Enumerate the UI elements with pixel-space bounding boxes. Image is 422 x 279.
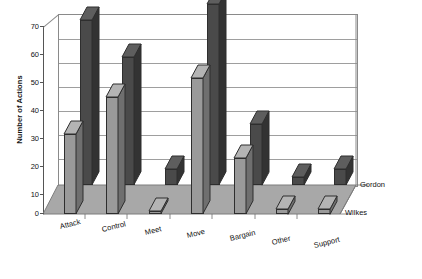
bar-side-face — [134, 44, 143, 186]
bar-top-face — [165, 156, 187, 172]
x-axis-label-move: Move — [186, 227, 206, 240]
bar-gordon-other — [292, 177, 305, 185]
bar-gordon-support — [334, 169, 347, 185]
bar-wilkes-control — [106, 97, 119, 214]
bar-top-face — [149, 198, 171, 214]
bar-top-face — [191, 65, 213, 81]
bar-top-face — [292, 164, 314, 180]
bar-chart-3d: Number of Actions 0 10 20 30 — [0, 0, 422, 279]
bar-gordon-meet — [165, 169, 178, 185]
y-tick-label: 30 — [19, 134, 39, 143]
x-axis-label-bargain: Bargain — [229, 228, 256, 243]
bar-wilkes-attack — [64, 134, 77, 214]
x-axis-label-control: Control — [101, 219, 127, 234]
bar-wilkes-meet — [149, 211, 162, 214]
y-tick-mark — [40, 110, 44, 111]
y-tick-label: 10 — [19, 190, 39, 199]
bar-wilkes-support — [318, 209, 331, 214]
bar-side-face — [219, 0, 228, 186]
y-tick-mark — [40, 138, 44, 139]
y-tick-label: 50 — [19, 78, 39, 87]
bar-top-face — [122, 44, 144, 60]
y-tick-label: 0 — [19, 209, 39, 218]
y-tick-mark — [40, 82, 44, 83]
bar-wilkes-bargain — [234, 158, 247, 214]
bar-top-face — [64, 121, 86, 137]
x-axis-label-support: Support — [313, 234, 341, 249]
y-tick-label: 20 — [19, 162, 39, 171]
bar-wilkes-move — [191, 78, 204, 214]
legend-label-wilkes: Wilkes — [345, 208, 367, 217]
x-axis-label-attack: Attack — [59, 217, 81, 231]
y-tick-mark — [40, 26, 44, 27]
bar-side-face — [92, 7, 101, 186]
y-axis-spine — [43, 27, 44, 214]
y-tick-label: 40 — [19, 106, 39, 115]
bar-top-face — [234, 145, 256, 161]
y-tick-label: 70 — [19, 22, 39, 31]
x-axis-label-other: Other — [271, 233, 291, 246]
bar-top-face — [334, 156, 356, 172]
y-tick-label: 60 — [19, 50, 39, 59]
bar-side-face — [118, 84, 127, 215]
bar-top-face — [276, 196, 298, 212]
bar-wilkes-other — [276, 209, 289, 214]
depth-edge-bottom — [43, 201, 59, 215]
y-tick-mark — [40, 54, 44, 55]
bar-top-face — [106, 84, 128, 100]
bar-side-face — [203, 65, 212, 215]
bar-top-face — [207, 0, 229, 7]
y-tick-mark — [40, 194, 44, 195]
y-tick-mark — [40, 166, 44, 167]
x-axis-label-meet: Meet — [144, 224, 162, 237]
legend-label-gordon: Gordon — [360, 180, 385, 189]
depth-edge-top — [43, 14, 59, 28]
bar-top-face — [318, 196, 340, 212]
bar-top-face — [250, 111, 272, 127]
bar-top-face — [80, 7, 102, 23]
y-tick-mark — [40, 213, 44, 214]
